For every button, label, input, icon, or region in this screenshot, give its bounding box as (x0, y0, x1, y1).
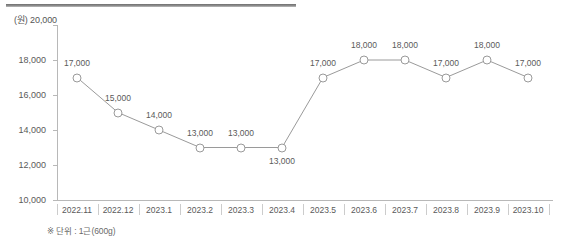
y-tick-mark (53, 95, 58, 96)
data-point-marker (278, 143, 287, 152)
data-point-label: 18,000 (392, 40, 418, 50)
y-tick-mark (53, 60, 58, 61)
y-tick-label: 12,000 (0, 160, 46, 170)
x-tick-separator (180, 204, 181, 215)
x-tick-label: 2023.7 (392, 205, 418, 215)
data-point-label: 18,000 (474, 40, 500, 50)
y-tick-label: 14,000 (0, 125, 46, 135)
x-tick-label: 2023.6 (351, 205, 377, 215)
y-axis-line (57, 25, 58, 201)
data-point-label: 13,000 (269, 156, 295, 166)
x-tick-separator (221, 204, 222, 215)
data-point-marker (196, 143, 205, 152)
data-point-marker (319, 73, 328, 82)
x-tick-separator (467, 204, 468, 215)
y-tick-mark (53, 200, 58, 201)
chart-container: (원) 20,000 20,00018,00016,00014,00012,00… (0, 0, 561, 251)
y-tick-mark (53, 25, 58, 26)
x-tick-label: 2023.3 (228, 205, 254, 215)
data-point-label: 17,000 (310, 58, 336, 68)
x-tick-separator (303, 204, 304, 215)
x-tick-separator (139, 204, 140, 215)
x-tick-label: 2023.8 (433, 205, 459, 215)
data-point-label: 17,000 (64, 58, 90, 68)
data-point-marker (114, 108, 123, 117)
data-point-marker (237, 143, 246, 152)
x-tick-separator (426, 204, 427, 215)
x-tick-separator (385, 204, 386, 215)
chart-footnote: ※ 단위 : 1근(600g) (47, 224, 115, 236)
data-point-label: 13,000 (228, 128, 254, 138)
x-axis-line (57, 200, 553, 201)
y-tick-mark (53, 130, 58, 131)
data-point-marker (155, 126, 164, 135)
x-tick-label: 2022.12 (103, 205, 134, 215)
x-tick-label: 2022.11 (62, 205, 92, 215)
data-point-marker (483, 56, 492, 65)
x-tick-separator (344, 204, 345, 215)
data-point-label: 17,000 (433, 58, 459, 68)
x-tick-label: 2023.2 (187, 205, 213, 215)
data-point-marker (524, 73, 533, 82)
data-point-label: 15,000 (105, 93, 131, 103)
data-point-label: 13,000 (187, 128, 213, 138)
data-point-label: 14,000 (146, 110, 172, 120)
plot-area: 20,00018,00016,00014,00012,00010,000 202… (0, 0, 561, 251)
data-point-marker (360, 56, 369, 65)
x-tick-label: 2023.1 (146, 205, 172, 215)
data-point-marker (442, 73, 451, 82)
x-tick-separator (262, 204, 263, 215)
data-point-label: 18,000 (351, 40, 377, 50)
x-tick-separator (57, 204, 58, 215)
y-tick-label: 16,000 (0, 90, 46, 100)
x-tick-label: 2023.5 (310, 205, 336, 215)
x-tick-label: 2023.4 (269, 205, 295, 215)
x-tick-separator (98, 204, 99, 215)
y-tick-label: 18,000 (0, 55, 46, 65)
y-tick-label: 10,000 (0, 195, 46, 205)
x-tick-separator (549, 204, 550, 215)
x-tick-label: 2023.9 (474, 205, 500, 215)
x-tick-separator (508, 204, 509, 215)
data-point-marker (73, 73, 82, 82)
data-point-label: 17,000 (515, 58, 541, 68)
data-point-marker (401, 56, 410, 65)
y-tick-mark (53, 165, 58, 166)
x-tick-label: 2023.10 (513, 205, 544, 215)
